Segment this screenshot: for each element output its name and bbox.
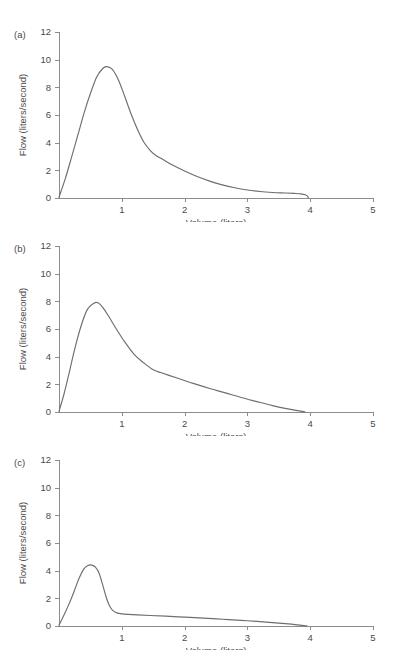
x-tick-label: 5	[370, 418, 375, 429]
x-tick-label: 3	[245, 418, 250, 429]
y-tick-label: 10	[40, 54, 51, 65]
y-tick-label: 4	[46, 565, 51, 576]
x-axis-title: Volume (liters)	[186, 217, 247, 222]
chart-panel-c: (c)02468101212345Volume (liters)Flow (li…	[0, 440, 394, 650]
flow-volume-loop-figure: (a)02468101212345Volume (liters)Flow (li…	[0, 0, 394, 656]
flow-volume-curve	[59, 565, 307, 626]
y-tick-label: 0	[46, 406, 51, 417]
chart-panel-a: (a)02468101212345Volume (liters)Flow (li…	[0, 12, 394, 222]
x-tick-label: 4	[308, 418, 313, 429]
x-tick-label: 5	[370, 204, 375, 215]
x-tick-label: 3	[245, 204, 250, 215]
y-tick-label: 4	[46, 137, 51, 148]
y-tick-label: 12	[40, 26, 51, 37]
y-tick-label: 12	[40, 454, 51, 465]
y-tick-label: 10	[40, 482, 51, 493]
panel-label: (c)	[14, 457, 25, 468]
flow-volume-curve	[59, 67, 308, 198]
y-tick-label: 10	[40, 268, 51, 279]
x-tick-label: 1	[119, 204, 124, 215]
x-axis-title: Volume (liters)	[186, 645, 247, 650]
y-tick-label: 2	[46, 379, 51, 390]
y-axis-title: Flow (liters/second)	[17, 288, 28, 370]
panel-label: (a)	[14, 29, 26, 40]
y-tick-label: 0	[46, 620, 51, 631]
y-axis-title: Flow (liters/second)	[17, 502, 28, 584]
x-tick-label: 2	[182, 204, 187, 215]
y-tick-label: 2	[46, 165, 51, 176]
y-tick-label: 2	[46, 593, 51, 604]
y-tick-label: 8	[46, 296, 51, 307]
x-tick-label: 3	[245, 632, 250, 643]
y-tick-label: 6	[46, 537, 51, 548]
x-tick-label: 4	[308, 632, 313, 643]
x-tick-label: 2	[182, 632, 187, 643]
y-tick-label: 8	[46, 510, 51, 521]
y-axis-title: Flow (liters/second)	[17, 74, 28, 156]
x-tick-label: 1	[119, 632, 124, 643]
panel-label: (b)	[14, 243, 26, 254]
y-tick-label: 0	[46, 192, 51, 203]
x-axis-title: Volume (liters)	[186, 431, 247, 436]
y-tick-label: 6	[46, 323, 51, 334]
x-tick-label: 5	[370, 632, 375, 643]
flow-volume-curve	[59, 302, 305, 412]
y-tick-label: 4	[46, 351, 51, 362]
x-tick-label: 4	[308, 204, 313, 215]
y-tick-label: 8	[46, 82, 51, 93]
chart-panel-b: (b)02468101212345Volume (liters)Flow (li…	[0, 226, 394, 436]
x-tick-label: 2	[182, 418, 187, 429]
y-tick-label: 12	[40, 240, 51, 251]
y-tick-label: 6	[46, 109, 51, 120]
x-tick-label: 1	[119, 418, 124, 429]
